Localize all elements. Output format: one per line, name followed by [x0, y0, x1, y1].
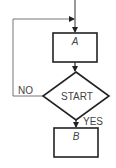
box-a-label: A — [71, 36, 79, 47]
flowchart: A START NO YES B — [0, 0, 116, 168]
box-b-label: B — [73, 131, 80, 142]
yes-label: YES — [83, 116, 103, 127]
start-label: START — [61, 91, 93, 102]
no-label: NO — [18, 85, 33, 96]
